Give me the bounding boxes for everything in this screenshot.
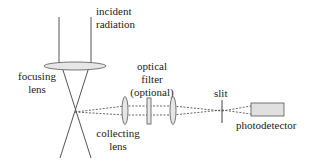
- converging-ray-bottom: [173, 110, 222, 115]
- incident-radiation-label: incident radiation: [96, 6, 135, 30]
- collecting-lens-label: collecting lens: [92, 128, 144, 152]
- collecting-label-line1: collecting: [92, 128, 144, 139]
- optical-filter-label: optical filter (optional): [122, 61, 182, 98]
- collection-ray-bottom-1: [75, 112, 125, 115]
- filter-label-line3: (optional): [122, 87, 182, 98]
- filter-label-line2: filter: [122, 74, 182, 85]
- detector-ray-bottom: [222, 110, 251, 114]
- slit-label: slit: [214, 88, 227, 99]
- collecting-lens: [122, 97, 128, 125]
- focusing-label-line1: focusing: [12, 71, 62, 82]
- focusing-lens: [44, 62, 106, 70]
- incident-label-line1: incident: [96, 6, 135, 17]
- focused-ray-right: [60, 67, 89, 158]
- incident-label-line2: radiation: [96, 19, 135, 30]
- photodetector-box: [251, 103, 284, 116]
- photodetector-label: photodetector: [236, 120, 296, 131]
- collecting-label-line2: lens: [92, 141, 144, 152]
- refocusing-lens: [170, 97, 176, 125]
- filter-label-line1: optical: [122, 61, 182, 72]
- optical-filter: [147, 98, 151, 124]
- converging-ray-top: [173, 106, 222, 111]
- focusing-lens-label: focusing lens: [12, 71, 62, 95]
- focusing-label-line2: lens: [12, 84, 62, 95]
- collection-ray-top-1: [75, 106, 125, 112]
